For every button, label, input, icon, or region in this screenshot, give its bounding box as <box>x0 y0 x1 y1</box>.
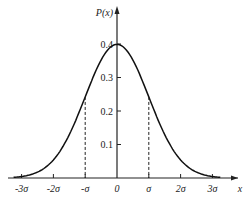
x-axis-arrow-icon <box>231 176 238 181</box>
chart-canvas: -3σ-2σ-σ0σ2σ3σx0.10.20.30.4P(x) <box>0 0 250 200</box>
x-tick-label: 3σ <box>206 183 218 194</box>
y-axis-arrow-icon <box>115 6 120 14</box>
y-tick-label: 0.2 <box>101 106 114 117</box>
x-tick-label: -3σ <box>15 183 29 194</box>
x-axis-label: x <box>237 183 243 194</box>
normal-distribution-chart: -3σ-2σ-σ0σ2σ3σx0.10.20.30.4P(x) <box>0 0 250 200</box>
y-tick-label: 0.3 <box>101 72 114 83</box>
x-tick-label: -σ <box>81 183 90 194</box>
x-tick-label: 0 <box>115 183 120 194</box>
y-axis-label: P(x) <box>95 7 114 19</box>
y-tick-label: 0.1 <box>101 139 114 150</box>
x-tick-label: 2σ <box>176 183 187 194</box>
x-tick-label: -2σ <box>47 183 61 194</box>
y-tick-label: 0.4 <box>101 39 114 50</box>
x-tick-label: σ <box>146 183 152 194</box>
